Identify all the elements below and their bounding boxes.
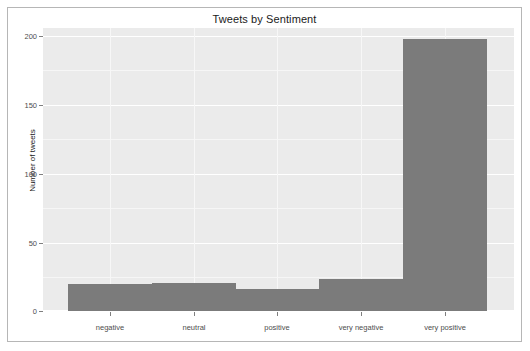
bar-positive (235, 289, 319, 311)
bar-very-positive (403, 39, 487, 311)
chart-figure: Tweets by Sentiment Number of tweets 200… (7, 7, 522, 342)
ytick-mark-200 (39, 36, 43, 37)
bar-neutral (152, 283, 236, 311)
xtick-mark-very-negative (361, 312, 362, 316)
bar-very-negative (319, 279, 403, 311)
gridline-x-neutral (194, 28, 195, 311)
gridline-x-very-negative (361, 28, 362, 311)
chart-title: Tweets by Sentiment (8, 13, 521, 25)
ytick-label-0: 0 (0, 307, 37, 316)
ytick-mark-150 (39, 105, 43, 106)
xtick-label-very-negative: very negative (339, 323, 384, 332)
gridline-y-200 (43, 36, 514, 37)
xtick-label-very-positive: very positive (424, 323, 466, 332)
ytick-label-50: 50 (0, 239, 37, 248)
xtick-label-neutral: neutral (183, 323, 206, 332)
ytick-mark-50 (39, 243, 43, 244)
bar-negative (68, 284, 152, 311)
gridline-x-negative (110, 28, 111, 311)
ytick-label-200: 200 (0, 32, 37, 41)
xtick-mark-negative (110, 312, 111, 316)
plot-panel (43, 28, 514, 311)
xtick-mark-very-positive (445, 312, 446, 316)
gridline-x-positive (277, 28, 278, 311)
ytick-label-150: 150 (0, 101, 37, 110)
ytick-mark-0 (39, 311, 43, 312)
xtick-mark-neutral (194, 312, 195, 316)
xtick-label-negative: negative (96, 323, 124, 332)
ytick-label-100: 100 (0, 170, 37, 179)
xtick-label-positive: positive (264, 323, 289, 332)
ytick-mark-100 (39, 174, 43, 175)
xtick-mark-positive (277, 312, 278, 316)
